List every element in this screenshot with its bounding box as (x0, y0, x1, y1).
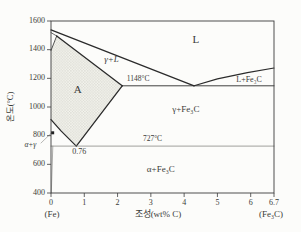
x-tick-label: 6 (249, 198, 253, 207)
x-axis-title: 조성(wt% C) (135, 209, 182, 219)
phase-diagram-svg: 400600800100012001400160001234566.7Lγ+L1… (0, 0, 301, 232)
region-label-liquid-plus-fe3c: L+Fe₃C (236, 75, 262, 84)
phase-boundary-liquidus-right (194, 68, 274, 86)
temp-label-1148: 1148°C (127, 74, 150, 83)
x-tick-label: 3 (149, 198, 153, 207)
region-label-austenite-A: A (74, 83, 82, 95)
y-tick-label: 1400 (29, 44, 45, 53)
x-axis-right-annotation: (Fe₃C) (259, 209, 283, 219)
y-tick-label: 400 (33, 188, 45, 197)
region-label-alpha-plus-gamma: α+γ (24, 140, 37, 149)
y-tick-label: 1000 (29, 102, 45, 111)
x-tick-label: 1 (82, 198, 86, 207)
y-tick-label: 600 (33, 159, 45, 168)
phase-diagram-figure: 400600800100012001400160001234566.7Lγ+L1… (0, 0, 301, 232)
comp-label-0-76: 0.76 (72, 147, 86, 156)
x-tick-label: 2 (116, 198, 120, 207)
y-tick-label: 1600 (29, 16, 45, 25)
region-label-gamma-plus-liquid: γ+L (104, 54, 119, 64)
phase-boundary-delta-liquidus-lower (51, 33, 57, 36)
temp-label-727: 727°C (143, 134, 162, 143)
y-tick-label: 1200 (29, 73, 45, 82)
region-label-alpha-plus-fe3c: α+Fe₃C (147, 164, 175, 174)
phase-boundary-alpha-solvus (51, 146, 53, 193)
x-tick-label: 0 (49, 198, 53, 207)
y-axis-title: 온도(°C) (5, 91, 15, 122)
x-tick-label: 6.7 (269, 198, 279, 207)
region-label-gamma-plus-fe3c: γ+Fe₃C (171, 104, 199, 114)
y-tick-label: 800 (33, 130, 45, 139)
region-label-liquid: L (192, 33, 199, 45)
x-tick-label: 4 (182, 198, 186, 207)
x-tick-label: 5 (215, 198, 219, 207)
austenite-A-region (51, 36, 122, 146)
alpha-gamma-point-marker (51, 131, 54, 134)
x-axis-left-annotation: (Fe) (45, 209, 60, 219)
